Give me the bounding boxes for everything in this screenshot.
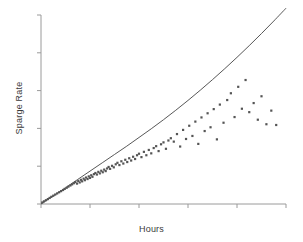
- data-point: [54, 193, 56, 195]
- data-point: [140, 156, 142, 158]
- data-point: [260, 95, 262, 97]
- data-point: [91, 176, 93, 178]
- data-point: [148, 149, 150, 151]
- data-point: [265, 123, 267, 125]
- data-point: [160, 143, 162, 145]
- data-point: [43, 200, 45, 202]
- data-point: [173, 141, 175, 143]
- data-point: [124, 159, 126, 161]
- data-point: [81, 180, 83, 182]
- data-point: [102, 171, 104, 173]
- data-point: [207, 112, 209, 114]
- fitted-curve-path: [41, 8, 286, 204]
- data-point: [79, 181, 81, 183]
- data-point: [56, 192, 58, 194]
- data-point: [96, 173, 98, 175]
- data-point: [105, 170, 107, 172]
- data-point: [222, 122, 224, 124]
- data-point: [257, 119, 259, 121]
- data-point: [132, 156, 134, 158]
- data-point: [60, 190, 62, 192]
- data-point: [126, 161, 128, 163]
- data-point: [213, 108, 215, 110]
- scatter-plot-svg: [0, 0, 303, 242]
- data-point: [158, 150, 160, 152]
- data-point: [58, 191, 60, 193]
- data-point: [99, 172, 101, 174]
- data-point: [50, 196, 52, 198]
- x-axis-title: Hours: [0, 224, 303, 234]
- data-point: [153, 147, 155, 149]
- data-point: [76, 182, 78, 184]
- data-point: [241, 108, 243, 110]
- data-point: [275, 124, 277, 126]
- data-point: [226, 99, 228, 101]
- data-point: [67, 186, 69, 188]
- data-point: [64, 188, 66, 190]
- data-point: [197, 143, 199, 145]
- data-point: [170, 137, 172, 139]
- data-point: [191, 135, 193, 137]
- data-point: [116, 162, 118, 164]
- data-point: [86, 178, 88, 180]
- data-point: [185, 138, 187, 140]
- data-point: [244, 79, 246, 81]
- data-point: [45, 199, 47, 201]
- data-point: [200, 116, 202, 118]
- data-point: [122, 162, 124, 164]
- data-point: [145, 154, 147, 156]
- data-point: [216, 138, 218, 140]
- data-point: [150, 152, 152, 154]
- data-point: [188, 125, 190, 127]
- data-point: [136, 154, 138, 156]
- data-point: [52, 195, 54, 197]
- data-point: [165, 148, 167, 150]
- data-point: [84, 179, 86, 181]
- data-point: [108, 166, 110, 168]
- data-point: [230, 92, 232, 94]
- data-point: [179, 145, 181, 147]
- data-point: [120, 160, 122, 162]
- data-point: [176, 133, 178, 135]
- data-point: [113, 166, 115, 168]
- data-point: [248, 111, 250, 113]
- chart-figure: Hours Sparge Rate: [0, 0, 303, 242]
- data-point: [167, 139, 169, 141]
- data-point: [233, 116, 235, 118]
- data-point: [134, 158, 136, 160]
- data-point: [204, 130, 206, 132]
- data-point: [253, 102, 255, 104]
- data-point: [109, 168, 111, 170]
- data-point: [89, 177, 91, 179]
- data-point: [128, 157, 130, 159]
- data-point: [138, 153, 140, 155]
- data-point: [143, 151, 145, 153]
- data-point: [219, 103, 221, 105]
- y-axis-title: Sparge Rate: [14, 53, 24, 163]
- data-point: [182, 129, 184, 131]
- data-points-group: [41, 79, 277, 204]
- data-point: [155, 145, 157, 147]
- data-point: [194, 121, 196, 123]
- data-point: [130, 159, 132, 161]
- data-point: [270, 110, 272, 112]
- data-point: [118, 164, 120, 166]
- data-point: [209, 126, 211, 128]
- data-point: [162, 141, 164, 143]
- data-point: [237, 86, 239, 88]
- fitted-curve: [41, 8, 286, 204]
